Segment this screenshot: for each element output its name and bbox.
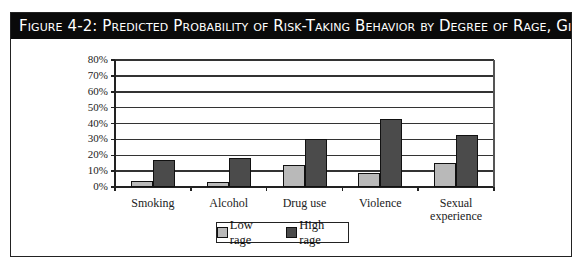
plot-right-edge [493, 60, 495, 187]
y-tick-label: 40% [68, 117, 108, 129]
x-tick-mark [114, 187, 116, 191]
bar-high-rage [380, 119, 402, 187]
bar-low-rage [207, 182, 229, 187]
x-tick-mark [266, 187, 268, 191]
y-tick-label: 30% [68, 132, 108, 144]
x-category-label: Violence [342, 197, 418, 210]
x-category-label: Smoking [115, 197, 191, 210]
bar-low-rage [283, 165, 305, 187]
bar-high-rage [229, 158, 251, 187]
y-tick-label: 0% [68, 180, 108, 192]
legend-label-low-rage: Low rage [230, 218, 277, 248]
gridline [115, 59, 494, 61]
low-rage-swatch-icon [217, 227, 228, 238]
legend-item-low-rage: Low rage [217, 218, 276, 248]
gridline [115, 123, 494, 125]
x-tick-mark [342, 187, 344, 191]
x-category-label: Drug use [267, 197, 343, 210]
x-tick-mark [417, 187, 419, 191]
y-tick-label: 10% [68, 164, 108, 176]
x-tick-mark [493, 187, 495, 191]
bar-low-rage [131, 181, 153, 187]
gridline [115, 75, 494, 77]
gridline [115, 91, 494, 93]
y-tick-label: 70% [68, 69, 108, 81]
y-tick-label: 50% [68, 101, 108, 113]
x-tick-mark [190, 187, 192, 191]
high-rage-swatch-icon [286, 227, 297, 238]
y-tick-label: 80% [68, 53, 108, 65]
y-tick-label: 60% [68, 85, 108, 97]
bar-low-rage [358, 173, 380, 187]
bar-high-rage [305, 139, 327, 187]
chart-legend: Low rage High rage [216, 222, 349, 243]
y-axis [114, 60, 116, 191]
bar-low-rage [434, 163, 456, 187]
bar-high-rage [456, 135, 478, 187]
legend-item-high-rage: High rage [286, 218, 348, 248]
gridline [115, 107, 494, 109]
legend-label-high-rage: High rage [299, 218, 348, 248]
x-category-label: Sexualexperience [418, 197, 494, 223]
x-category-label: Alcohol [191, 197, 267, 210]
bar-high-rage [153, 160, 175, 187]
y-tick-label: 20% [68, 148, 108, 160]
